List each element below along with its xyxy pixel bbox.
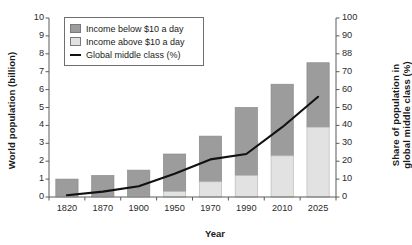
bar-group [199, 136, 221, 197]
y-axis-left-title: World population (billion) [6, 26, 17, 196]
bar-segment-income-above [271, 156, 293, 197]
y-axis-right-title: Share of population in global middle cla… [390, 29, 412, 201]
y-axis-right-tick-label: 100 [342, 12, 368, 22]
legend-label-middle-class: Global middle class (%) [86, 50, 181, 60]
bar-group [235, 108, 257, 198]
y-axis-left-tick-label: 6 [22, 84, 44, 94]
chart-legend: Income below $10 a day Income above $10 … [64, 17, 204, 66]
bar-group [92, 176, 114, 197]
legend-label-income-below: Income below $10 a day [86, 24, 184, 34]
y-axis-left-tick-label: 8 [22, 48, 44, 58]
legend-item-middle-class: Global middle class (%) [70, 48, 198, 61]
bar-segment-income-below [307, 63, 329, 127]
y-axis-left-tick-label: 5 [22, 102, 44, 112]
y-axis-right-tick-label: 70 [342, 66, 368, 76]
legend-item-income-above: Income above $10 a day [70, 35, 198, 48]
y-axis-right-tick-label: 10 [342, 173, 368, 183]
dark-swatch-icon [70, 24, 81, 33]
y-axis-left-tick-label: 7 [22, 66, 44, 76]
y-axis-right-tick-label: 40 [342, 119, 368, 129]
light-swatch-icon [70, 37, 81, 46]
y-axis-right-tick-label: 90 [342, 30, 368, 40]
y-axis-left-tick-label: 10 [22, 12, 44, 22]
x-axis-tick-label: 2025 [296, 203, 340, 213]
y-axis-right-tick-label: 88 [342, 48, 368, 58]
y-axis-right-tick-label: 30 [342, 137, 368, 147]
y-axis-left-tick-label: 2 [22, 155, 44, 165]
y-axis-left-tick-label: 3 [22, 137, 44, 147]
y-axis-right-tick-label: 50 [342, 102, 368, 112]
line-swatch-icon [70, 50, 81, 59]
y-axis-left-tick-label: 9 [22, 30, 44, 40]
y-axis-right-tick-label: 20 [342, 155, 368, 165]
bar-segment-income-above [307, 127, 329, 197]
y-axis-left-tick-label: 0 [22, 191, 44, 201]
y-axis-right-title-line1: Share of population in [390, 64, 401, 166]
bar-group [271, 84, 293, 197]
bar-segment-income-above [163, 192, 185, 197]
y-axis-right-title-line2: global middle class (%) [401, 61, 412, 168]
bar-segment-income-above [235, 176, 257, 197]
legend-label-income-above: Income above $10 a day [86, 37, 185, 47]
bar-group [307, 63, 329, 197]
y-axis-left-tick-label: 1 [22, 173, 44, 183]
y-axis-right-tick-label: 60 [342, 84, 368, 94]
legend-item-income-below: Income below $10 a day [70, 22, 198, 35]
bar-segment-income-above [199, 182, 221, 197]
y-axis-left-tick-label: 4 [22, 119, 44, 129]
y-axis-right-tick-label: 0 [342, 191, 368, 201]
x-axis-title: Year [0, 228, 408, 239]
bar-segment-income-below [235, 108, 257, 176]
